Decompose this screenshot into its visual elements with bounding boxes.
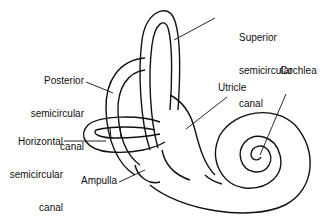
label-ampulla: Ampulla [81, 175, 117, 186]
label-utricle: Utricle [218, 82, 246, 93]
label-line: Posterior [20, 75, 84, 86]
label-line: Horizontal [0, 136, 63, 147]
label-line: semicircular [0, 169, 63, 180]
label-horizontal-canal: Horizontal semicircular canal [0, 114, 63, 222]
label-line: canal [239, 98, 292, 109]
label-line: Superior [239, 32, 292, 43]
label-line: canal [0, 202, 63, 213]
label-cochlea: Cochlea [280, 65, 317, 76]
inner-ear-diagram: Superior semicircular canal Posterior se… [0, 0, 321, 222]
superior-canal-shape [140, 11, 180, 150]
